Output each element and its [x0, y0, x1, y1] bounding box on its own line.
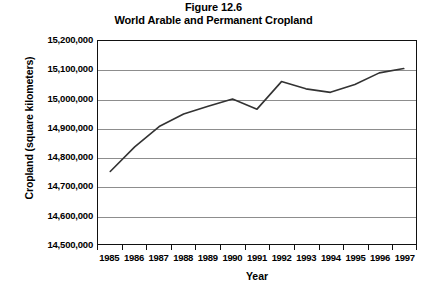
y-axis-tick-label: 14,600,000 — [31, 211, 93, 221]
x-axis-tick-label: 1997 — [390, 252, 420, 263]
x-axis-tick — [220, 245, 221, 250]
figure-title-block: Figure 12.6 World Arable and Permanent C… — [0, 1, 427, 27]
figure-title: World Arable and Permanent Cropland — [0, 14, 427, 27]
x-axis-tick — [319, 245, 320, 250]
y-axis-tick-label: 15,100,000 — [31, 64, 93, 74]
y-axis-tick-label: 14,700,000 — [31, 181, 93, 191]
x-axis-tick — [368, 245, 369, 250]
x-axis-tick — [245, 245, 246, 250]
y-axis-tick-label: 15,200,000 — [31, 35, 93, 45]
x-axis-tick-labels: 1985198619871988198919901991199219931994… — [97, 252, 417, 266]
x-axis-tick — [97, 245, 98, 250]
data-series-line — [98, 41, 416, 244]
series-line — [110, 69, 404, 172]
x-axis-tick — [269, 245, 270, 250]
x-axis-tick — [416, 245, 417, 250]
figure-number: Figure 12.6 — [0, 1, 427, 14]
x-axis-tick — [294, 245, 295, 250]
x-axis-title: Year — [97, 270, 417, 282]
y-axis-tick-label: 15,000,000 — [31, 94, 93, 104]
x-axis-ticks — [97, 245, 417, 251]
x-axis-tick — [171, 245, 172, 250]
x-axis-tick — [122, 245, 123, 250]
figure-container: Figure 12.6 World Arable and Permanent C… — [0, 0, 427, 289]
y-axis-tick-label: 14,500,000 — [31, 240, 93, 250]
x-axis-tick — [195, 245, 196, 250]
x-axis-tick — [343, 245, 344, 250]
y-axis-tick-label: 14,900,000 — [31, 123, 93, 133]
y-axis-tick-label: 14,800,000 — [31, 152, 93, 162]
x-axis-tick — [146, 245, 147, 250]
x-axis-tick — [392, 245, 393, 250]
y-axis-tick-labels: 15,200,00015,100,00015,000,00014,900,000… — [29, 40, 93, 245]
plot-area — [97, 40, 417, 245]
